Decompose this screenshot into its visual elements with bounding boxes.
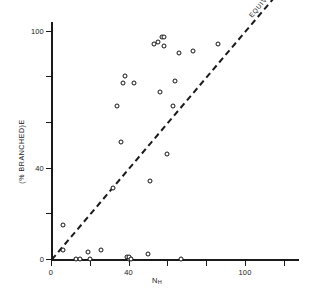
x-tick <box>245 261 246 266</box>
data-point <box>155 39 160 44</box>
data-point <box>60 222 65 227</box>
y-tick <box>46 168 51 169</box>
data-point <box>118 140 123 145</box>
x-tick-label: 40 <box>124 268 133 277</box>
y-tick <box>46 76 51 77</box>
y-tick <box>46 31 51 32</box>
data-point <box>128 257 133 262</box>
data-point <box>147 179 152 184</box>
data-point <box>111 186 116 191</box>
data-point <box>165 151 170 156</box>
y-tick <box>46 122 51 123</box>
data-point <box>161 35 166 40</box>
data-point <box>122 74 127 79</box>
data-point <box>114 103 119 108</box>
data-point <box>87 257 92 262</box>
data-point <box>99 247 104 252</box>
data-point <box>85 250 90 255</box>
x-tick-label: 100 <box>238 268 251 277</box>
x-tick <box>206 261 207 266</box>
y-axis-line <box>51 22 53 260</box>
data-point <box>173 78 178 83</box>
data-point <box>161 44 166 49</box>
x-axis-title: NH <box>152 276 162 285</box>
data-point <box>60 247 65 252</box>
data-point <box>146 252 151 257</box>
data-point <box>215 42 220 47</box>
data-point <box>78 257 83 262</box>
x-tick <box>167 261 168 266</box>
data-point <box>178 257 183 262</box>
data-point <box>177 51 182 56</box>
y-axis-title: (% BRANCHED)E <box>18 107 25 197</box>
data-point <box>171 103 176 108</box>
x-tick-label: 0 <box>49 268 53 277</box>
x-tick <box>51 261 52 266</box>
y-tick-label: 40 <box>22 163 44 172</box>
data-point <box>120 81 125 86</box>
y-tick <box>46 213 51 214</box>
data-point <box>157 90 162 95</box>
x-tick <box>129 261 130 266</box>
data-point <box>132 81 137 86</box>
equivalence-line <box>51 0 301 260</box>
y-tick-label: 0 <box>22 255 44 264</box>
x-tick <box>90 261 91 266</box>
x-axis-title-sub: H <box>158 279 162 285</box>
y-tick-label: 100 <box>22 26 44 35</box>
data-point <box>190 49 195 54</box>
scatter-plot-figure: 040100040100 EQUIVALENCE (% BRANCHED)E N… <box>0 0 312 307</box>
x-tick <box>284 261 285 266</box>
